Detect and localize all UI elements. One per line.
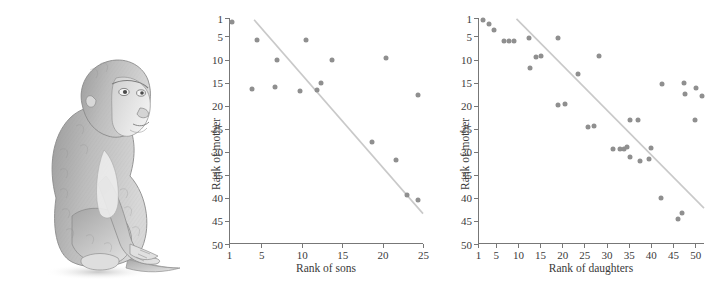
y-tick-label: 40 <box>461 193 472 204</box>
y-tick: 50 <box>441 244 478 245</box>
y-tick-mark <box>474 60 478 61</box>
plot-area-sons <box>229 18 423 244</box>
data-point <box>555 36 560 41</box>
data-point <box>624 144 629 149</box>
y-tick-label: 1 <box>467 13 473 24</box>
data-point <box>255 38 260 43</box>
data-point <box>585 125 590 130</box>
data-point <box>699 94 704 99</box>
x-tick-label: 30 <box>602 250 613 261</box>
y-tick-mark <box>225 106 229 107</box>
data-point <box>683 92 688 97</box>
y-tick-label: 50 <box>461 239 472 250</box>
x-tick-mark <box>518 244 519 248</box>
data-point <box>575 72 580 77</box>
data-point <box>539 54 544 59</box>
y-tick: 10 <box>441 60 478 61</box>
macaque-illustration <box>0 0 200 299</box>
y-tick-mark <box>474 129 478 130</box>
y-tick: 45 <box>196 221 229 222</box>
y-tick-label: 10 <box>212 55 223 66</box>
x-tick-label: 50 <box>690 250 701 261</box>
y-tick-mark <box>474 152 478 153</box>
y-axis-title-sons: Rank of mother <box>210 118 222 190</box>
x-tick-label: 5 <box>493 250 499 261</box>
data-point <box>481 18 486 23</box>
data-point <box>562 101 567 106</box>
x-tick-mark <box>342 244 343 248</box>
x-tick-label: 25 <box>579 250 590 261</box>
data-point <box>273 85 278 90</box>
data-point <box>297 89 302 94</box>
y-tick: 5 <box>441 36 478 37</box>
y-tick-mark <box>225 36 229 37</box>
x-tick-label: 1 <box>227 250 233 261</box>
data-points-sons <box>230 18 423 243</box>
data-point <box>659 82 664 87</box>
y-tick-label: 1 <box>218 13 224 24</box>
y-tick: 45 <box>441 221 478 222</box>
y-axis-title-daughters: Rank of mother <box>459 118 471 190</box>
data-point <box>611 147 616 152</box>
y-tick-label: 20 <box>461 101 472 112</box>
figure-panel: 15101520253035404550 1510152025 Rank of … <box>0 0 724 299</box>
data-point <box>405 193 410 198</box>
data-point <box>249 87 254 92</box>
y-tick-mark <box>225 152 229 153</box>
data-point <box>693 85 698 90</box>
y-tick-label: 20 <box>212 101 223 112</box>
data-point <box>384 56 389 61</box>
y-tick-label: 40 <box>212 193 223 204</box>
x-tick-label: 20 <box>378 250 389 261</box>
data-point <box>274 57 279 62</box>
y-tick-label: 10 <box>461 55 472 66</box>
data-point <box>393 158 398 163</box>
data-point <box>555 103 560 108</box>
x-tick-mark <box>607 244 608 248</box>
data-point <box>315 88 320 93</box>
data-point <box>648 146 653 151</box>
data-point <box>512 39 517 44</box>
data-point <box>533 54 538 59</box>
y-tick: 10 <box>196 60 229 61</box>
data-point <box>635 118 640 123</box>
y-tick-label: 15 <box>461 78 472 89</box>
data-point <box>627 155 632 160</box>
x-tick-label: 45 <box>668 250 679 261</box>
data-point <box>303 38 308 43</box>
y-tick-mark <box>474 36 478 37</box>
x-tick-label: 25 <box>418 250 429 261</box>
y-tick: 1 <box>441 18 478 19</box>
y-tick: 40 <box>441 198 478 199</box>
x-axis-title-daughters: Rank of daughters <box>478 262 704 274</box>
data-point <box>680 211 685 216</box>
data-points-daughters <box>479 18 704 243</box>
y-tick-mark <box>474 221 478 222</box>
y-tick-mark <box>474 83 478 84</box>
y-tick-mark <box>474 106 478 107</box>
y-tick-mark <box>225 175 229 176</box>
y-tick-mark <box>474 198 478 199</box>
y-tick-label: 50 <box>212 239 223 250</box>
x-tick-label: 35 <box>624 250 635 261</box>
y-tick-label: 45 <box>212 216 223 227</box>
x-tick-mark <box>383 244 384 248</box>
y-tick-mark <box>225 198 229 199</box>
y-tick: 50 <box>196 244 229 245</box>
x-tick-mark <box>562 244 563 248</box>
data-point <box>329 57 334 62</box>
y-tick-mark <box>474 175 478 176</box>
x-tick-mark <box>302 244 303 248</box>
data-point <box>230 19 235 24</box>
data-point <box>415 93 420 98</box>
data-point <box>370 139 375 144</box>
data-point <box>491 27 496 32</box>
data-point <box>692 118 697 123</box>
data-point <box>415 198 420 203</box>
x-tick-label: 20 <box>557 250 568 261</box>
x-tick-label: 40 <box>646 250 657 261</box>
x-tick-label: 10 <box>513 250 524 261</box>
x-tick-label: 5 <box>259 250 265 261</box>
data-point <box>526 36 531 41</box>
x-tick-mark <box>584 244 585 248</box>
